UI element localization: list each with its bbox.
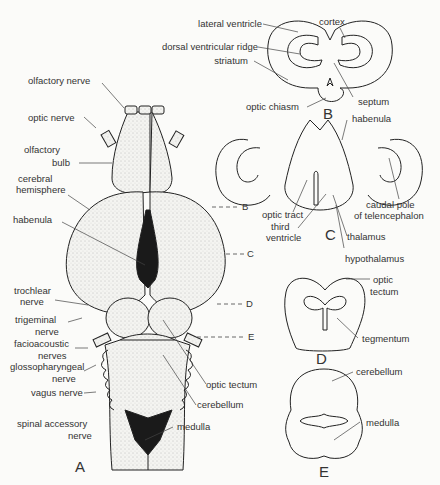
label-optic-tectum-a: optic tectum xyxy=(206,380,257,390)
label-cerebral-hemisphere-2: hemisphere xyxy=(16,185,66,195)
label-hypothalamus: hypothalamus xyxy=(345,254,404,264)
label-cerebral-hemisphere-1: cerebral xyxy=(18,174,52,184)
label-caudal-pole-1: caudal pole xyxy=(366,200,415,210)
label-striatum: striatum xyxy=(214,56,248,66)
panel-label-b: B xyxy=(323,105,333,122)
label-trigeminal-2: nerve xyxy=(35,327,59,337)
section-marker-c: C xyxy=(247,249,254,259)
olfactory-bulb-right xyxy=(150,112,172,193)
label-medulla-e: medulla xyxy=(366,418,399,428)
panel-label-a: A xyxy=(75,458,85,475)
label-cortex: cortex xyxy=(319,17,345,27)
section-marker-b: B xyxy=(242,202,248,212)
panel-b-drawing xyxy=(268,21,393,101)
label-glossopharyngeal-1: glossopharyngeal xyxy=(10,362,84,372)
panel-c-drawing xyxy=(216,120,423,210)
label-optic-tectum-d-1: optic xyxy=(373,275,393,285)
label-thalamus: thalamus xyxy=(347,232,386,242)
label-trochlear-1: trochlear xyxy=(14,286,51,296)
label-vagus-nerve: vagus nerve xyxy=(31,388,83,398)
label-spinal-accessory-2: nerve xyxy=(68,431,92,441)
label-olfactory-bulb-1: olfactory xyxy=(24,145,60,155)
cerebral-hemisphere-left xyxy=(66,192,145,313)
label-facioacoustic-1: facioacoustic xyxy=(14,339,69,349)
section-marker-d: D xyxy=(246,299,253,309)
label-facioacoustic-2: nerves xyxy=(38,351,67,361)
label-habenula-a: habenula xyxy=(13,215,52,225)
label-optic-chiasm: optic chiasm xyxy=(246,102,299,112)
panel-label-d: D xyxy=(316,350,327,367)
section-marker-e: E xyxy=(248,332,254,342)
panel-label-c: C xyxy=(325,226,336,243)
label-lateral-ventricle: lateral ventricle xyxy=(198,19,262,29)
label-cerebellum-e: cerebellum xyxy=(356,367,402,377)
label-tegmentum: tegmentum xyxy=(362,334,410,344)
label-caudal-pole-2: of telencephalon xyxy=(354,211,424,221)
label-olfactory-nerve: olfactory nerve xyxy=(28,76,90,86)
label-trochlear-2: nerve xyxy=(20,297,44,307)
label-dorsal-ventricular-ridge: dorsal ventricular ridge xyxy=(162,42,258,52)
panel-e-drawing xyxy=(286,369,363,458)
panel-label-e: E xyxy=(319,463,329,480)
label-optic-tectum-d-2: tectum xyxy=(370,287,399,297)
diagram-drawing xyxy=(0,0,440,485)
label-glossopharyngeal-2: nerve xyxy=(52,374,76,384)
label-trigeminal-1: trigeminal xyxy=(15,315,56,325)
label-optic-nerve: optic nerve xyxy=(28,113,74,123)
label-third-ventricle-2: ventricle xyxy=(266,233,301,243)
label-olfactory-bulb-2: bulb xyxy=(52,158,70,168)
label-cerebellum-a: cerebellum xyxy=(197,400,243,410)
cerebral-hemisphere-right xyxy=(150,192,225,312)
label-third-ventricle-1: third xyxy=(271,222,289,232)
label-spinal-accessory-1: spinal accessory xyxy=(17,419,87,429)
label-optic-tract: optic tract xyxy=(262,210,303,220)
label-septum: septum xyxy=(358,97,389,107)
olfactory-bulb-left xyxy=(112,112,150,193)
reptile-brain-diagram: olfactory nerve optic nerve olfactory bu… xyxy=(0,0,440,485)
panel-d-drawing xyxy=(285,278,365,351)
label-habenula-c: habenula xyxy=(352,114,391,124)
label-medulla-a: medulla xyxy=(177,422,210,432)
